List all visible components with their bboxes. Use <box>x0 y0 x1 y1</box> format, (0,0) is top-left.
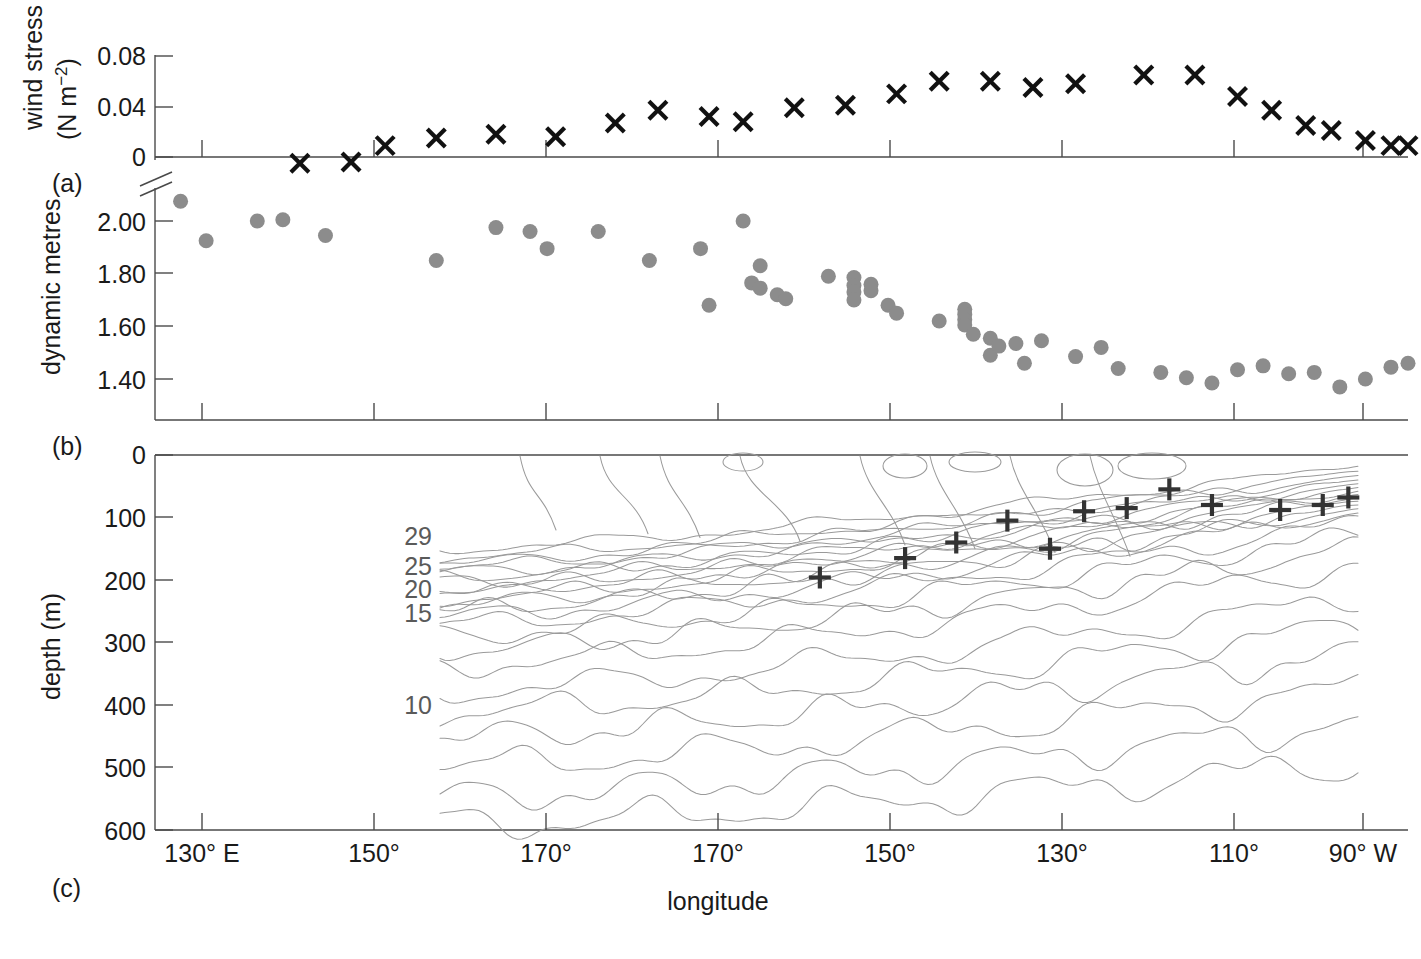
dynamic-height-marker <box>642 253 657 268</box>
wind-stress-marker <box>700 108 718 126</box>
isotherm-closed-cell <box>1118 453 1186 479</box>
panel-b-yticklabel-1: 1.80 <box>97 260 146 288</box>
wind-stress-marker <box>981 72 999 90</box>
panel-b-yticks <box>155 221 173 379</box>
x-tick-label-5: 130° <box>1036 839 1088 867</box>
wind-stress-marker <box>1382 137 1400 155</box>
dynamic-height-marker <box>318 228 333 243</box>
dynamic-height-marker <box>540 241 555 256</box>
dynamic-height-marker <box>966 327 981 342</box>
x-tick-label-7: 90° W <box>1329 839 1398 867</box>
wind-stress-marker <box>785 99 803 117</box>
dynamic-height-marker <box>1332 379 1347 394</box>
thermocline-depth-marker <box>1116 497 1138 519</box>
isotherm-contour <box>440 488 1358 581</box>
thermocline-depth-marker <box>1158 478 1180 500</box>
dynamic-height-marker <box>693 241 708 256</box>
wind-stress-marker <box>1229 87 1247 105</box>
panel-label-a: (a) <box>52 169 83 197</box>
dynamic-height-marker <box>821 269 836 284</box>
panel-c-ylabel: depth (m) <box>37 593 65 700</box>
panel-a: 0.08 0.04 0 wind stress (N m−2) (a) <box>19 5 1417 197</box>
isotherm-contour <box>440 675 1358 771</box>
panel-a-y-axis-title: wind stress (N m−2) <box>19 5 81 140</box>
x-axis-tick-labels: 130° E150°170°170°150°130°110°90° W <box>164 839 1397 867</box>
dynamic-height-marker <box>1111 361 1126 376</box>
dynamic-height-marker <box>1153 365 1168 380</box>
isotherm-contour <box>440 476 1358 564</box>
dynamic-height-marker <box>1401 356 1416 371</box>
x-tick-label-4: 150° <box>864 839 916 867</box>
contour-label-29: 29 <box>404 522 432 550</box>
panel-c-yticklabel-5: 500 <box>104 754 146 782</box>
wind-stress-marker <box>547 128 565 146</box>
wind-stress-marker <box>1297 116 1315 134</box>
panel-c-yticklabel-4: 400 <box>104 692 146 720</box>
dynamic-height-marker <box>1383 360 1398 375</box>
dynamic-height-marker <box>1094 340 1109 355</box>
panel-a-ylabel-line2: (N m−2) <box>52 58 81 140</box>
panel-b-yticklabel-2: 1.60 <box>97 313 146 341</box>
dynamic-height-marker <box>429 253 444 268</box>
panel-label-c: (c) <box>52 874 81 902</box>
panel-c-yticklabel-0: 0 <box>132 441 146 469</box>
panel-b-ylabel: dynamic metres <box>37 199 65 375</box>
isotherm-contours <box>440 452 1358 839</box>
panel-a-yticklabel-1: 0.04 <box>97 93 146 121</box>
wind-stress-marker <box>376 137 394 155</box>
isotherm-contour <box>440 537 1358 661</box>
wind-stress-marker <box>734 113 752 131</box>
panel-c-xticks <box>202 813 1363 830</box>
x-tick-label-6: 110° <box>1209 839 1259 867</box>
panel-c-yticklabel-1: 100 <box>104 504 146 532</box>
isotherm-contour <box>440 501 1358 606</box>
wind-stress-marker <box>1135 66 1153 84</box>
dynamic-height-marker <box>250 214 265 229</box>
isotherm-contour <box>440 597 1358 703</box>
dynamic-height-marker <box>275 212 290 227</box>
isotherm-closed-cell <box>883 454 927 478</box>
dynamic-height-marker <box>523 224 538 239</box>
thermocline-depth-marker <box>1039 538 1061 560</box>
isotherm-contour <box>440 756 1358 839</box>
dynamic-height-marker <box>1068 349 1083 364</box>
dynamic-height-marker <box>753 281 768 296</box>
dynamic-height-marker <box>1281 366 1296 381</box>
wind-stress-marker <box>1399 137 1417 155</box>
panel-b-xticks <box>202 403 1363 420</box>
x-tick-label-0: 130° E <box>164 839 239 867</box>
dynamic-height-marker <box>1017 356 1032 371</box>
isotherm-contour-outcrop <box>600 456 648 534</box>
dynamic-height-marker <box>1034 333 1049 348</box>
contour-labels: 2925201510 <box>404 522 432 719</box>
dynamic-height-marker <box>591 224 606 239</box>
panel-a-ylabel-line1: wind stress <box>19 5 47 131</box>
dynamic-height-marker <box>702 298 717 313</box>
x-tick-label-3: 170° <box>692 839 744 867</box>
isotherm-contour <box>440 494 1358 592</box>
panel-a-yticklabel-0: 0.08 <box>97 42 146 70</box>
dynamic-height-marker <box>1230 362 1245 377</box>
dynamic-height-marker <box>1204 375 1219 390</box>
panel-c: 0 100 200 300 400 500 600 depth (m) 2925… <box>37 441 1408 915</box>
panel-c-yticklabel-6: 600 <box>104 817 146 845</box>
dynamic-height-marker <box>1179 370 1194 385</box>
isotherm-contour-outcrop <box>740 456 800 541</box>
figure-root: 0.08 0.04 0 wind stress (N m−2) (a) <box>0 0 1421 959</box>
dynamic-height-marker <box>1358 372 1373 387</box>
dynamic-height-marker <box>173 194 188 209</box>
isotherm-contour <box>440 717 1358 810</box>
isotherm-contour-outcrop <box>520 456 556 530</box>
x-tick-label-2: 170° <box>520 839 572 867</box>
wind-stress-marker <box>487 125 505 143</box>
dynamic-height-marker <box>1008 336 1023 351</box>
wind-stress-marker <box>1067 75 1085 93</box>
wind-stress-marker <box>1186 66 1204 84</box>
contour-label-10: 10 <box>404 691 432 719</box>
wind-stress-marker <box>606 114 624 132</box>
panel-c-yticklabel-3: 300 <box>104 629 146 657</box>
dynamic-height-marker <box>991 339 1006 354</box>
wind-stress-marker <box>836 96 854 114</box>
panel-b: 2.00 1.80 1.60 1.40 dynamic metres (b) <box>37 188 1416 460</box>
isotherm-contour <box>440 563 1358 678</box>
